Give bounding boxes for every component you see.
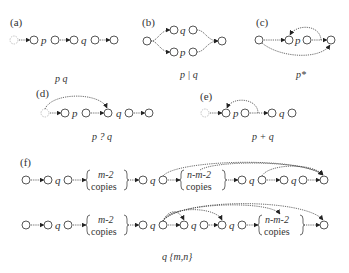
state-node [218,37,226,45]
symbol-p: p [294,34,301,46]
symbol-q: q [150,174,156,186]
copies-label: copies [91,181,117,192]
symbol-q: q [229,219,235,231]
panel-a-label: (a) [10,16,23,29]
copies-label: copies [186,181,212,192]
symbol-q: q [180,24,186,36]
state-node [320,221,328,229]
copies-count-m-2: m-2 [98,214,114,225]
state-node [125,109,133,117]
state-node [143,37,151,45]
symbol-p: p [71,107,78,119]
panel-e-label: (e) [200,90,213,103]
panel-f-row-1: q m-2 copies q n-m-2 copies q q [22,162,328,192]
state-node [91,36,99,44]
panel-a: (a) p q p q [10,16,118,84]
copies-count-n-m-2: n-m-2 [187,169,211,180]
state-node [170,26,178,34]
state-node [64,176,72,184]
ghost-start-node [10,36,18,44]
state-node [159,221,167,229]
symbol-q: q [81,34,87,46]
symbol-p: p [232,107,239,119]
state-node [145,109,153,117]
state-node [280,176,288,184]
panel-f: (f) q m-2 copies q n-m-2 copies q [20,156,328,262]
symbol-q: q [55,219,61,231]
state-node [255,36,263,44]
copies-count-m-2: m-2 [98,169,114,180]
copies-label: copies [91,226,117,237]
state-node [189,48,197,56]
ghost-start-node [41,109,49,117]
symbol-q: q [279,107,285,119]
symbol-p: p [179,46,186,58]
state-node [51,36,59,44]
state-node [64,221,72,229]
panel-b-caption: p | q [179,69,198,80]
panel-d-caption: p ? q [91,131,112,142]
state-node [189,26,197,34]
state-node [222,109,230,117]
symbol-q: q [116,107,122,119]
state-node [241,109,249,117]
panel-d: (d) p q p ? q [36,87,153,142]
state-node [61,109,69,117]
symbol-q: q [150,219,156,231]
state-node [327,36,335,44]
panel-e-caption: p + q [251,131,274,142]
panel-f-label: (f) [20,156,31,169]
panel-c-label: (c) [256,16,269,29]
symbol-q: q [55,174,61,186]
state-node [180,221,188,229]
panel-c-caption: p* [295,69,306,80]
symbol-q: q [291,174,297,186]
panel-f-caption: q {m,n} [162,251,192,262]
state-node [22,176,30,184]
state-node [218,221,226,229]
state-node [320,176,328,184]
state-node [104,109,112,117]
state-node [288,109,296,117]
state-node [44,176,52,184]
copies-label: copies [264,226,290,237]
state-node [299,176,307,184]
regex-automata-diagram: (a) p q p q (b) q p p | q (c) p [0,0,349,273]
state-node [110,36,118,44]
panel-c: (c) p p* [255,16,335,80]
symbol-q: q [191,219,197,231]
ghost-start-node [201,109,209,117]
state-node [44,221,52,229]
state-node [139,221,147,229]
panel-b-label: (b) [142,16,155,29]
state-node [22,221,30,229]
panel-d-label: (d) [36,87,49,100]
panel-a-caption: p q [54,73,68,84]
panel-b: (b) q p p | q [142,16,226,80]
state-node [139,176,147,184]
state-node [238,221,246,229]
state-node [303,36,311,44]
state-node [82,109,90,117]
state-node [285,36,293,44]
state-node [159,176,167,184]
state-node [30,36,38,44]
state-node [170,48,178,56]
state-node [70,36,78,44]
panel-f-row-2: q m-2 copies q q q n-m-2 copies [22,204,328,237]
state-node [238,176,246,184]
symbol-p: p [40,34,47,46]
copies-count-n-m-2: n-m-2 [265,214,289,225]
state-node [200,221,208,229]
state-node [258,176,266,184]
state-node [268,109,276,117]
symbol-q: q [249,174,255,186]
panel-e: (e) p q p + q [200,90,296,142]
